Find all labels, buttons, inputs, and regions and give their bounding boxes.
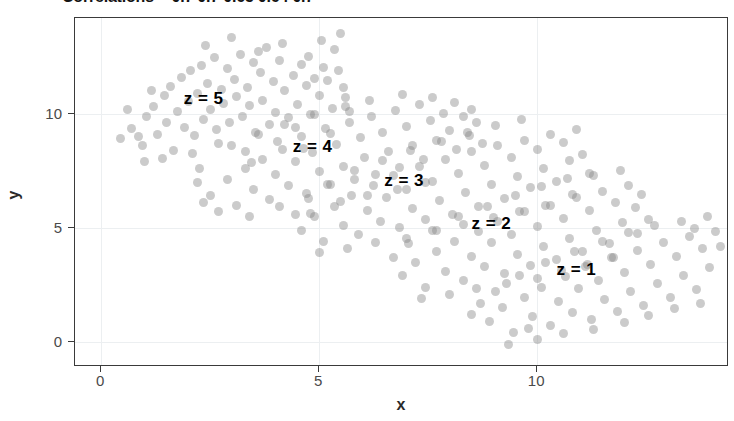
scatter-point: [243, 83, 252, 92]
scatter-point: [633, 246, 642, 255]
scatter-point: [269, 77, 278, 86]
scatter-point: [441, 155, 450, 164]
scatter-point: [291, 123, 300, 132]
scatter-point: [483, 202, 492, 211]
scatter-point: [328, 104, 337, 113]
scatter-point: [402, 122, 411, 131]
scatter-point: [716, 242, 725, 251]
scatter-point: [201, 41, 210, 50]
scatter-point: [592, 226, 601, 235]
scatter-point: [241, 164, 250, 173]
scatter-point: [317, 36, 326, 45]
scatter-point: [498, 303, 507, 312]
scatter-point: [271, 170, 280, 179]
scatter-point: [633, 229, 642, 238]
scatter-point: [162, 118, 171, 127]
scatter-point: [411, 258, 420, 267]
scatter-point: [210, 53, 219, 62]
scatter-point: [537, 182, 546, 191]
scatter-point: [517, 115, 526, 124]
scatter-point: [537, 283, 546, 292]
scatter-point: [265, 120, 274, 129]
scatter-point: [533, 145, 542, 154]
scatter-point: [350, 175, 359, 184]
scatter-point: [472, 118, 481, 127]
scatter-point: [367, 112, 376, 121]
scatter-point: [186, 66, 195, 75]
scatter-point: [539, 164, 548, 173]
gridline-vertical: [101, 18, 102, 365]
scatter-point: [225, 118, 234, 127]
scatter-point: [304, 52, 313, 61]
scatter-point: [214, 139, 223, 148]
scatter-point: [698, 244, 707, 253]
scatter-point: [502, 279, 511, 288]
gridline-vertical: [537, 18, 538, 365]
scatter-point: [467, 252, 476, 261]
scatter-point: [487, 238, 496, 247]
scatter-point: [467, 147, 476, 156]
scatter-point: [262, 43, 271, 52]
scatter-point: [293, 100, 302, 109]
scatter-point: [245, 101, 254, 110]
scatter-point: [476, 299, 485, 308]
scatter-point: [330, 202, 339, 211]
scatter-point: [223, 64, 232, 73]
scatter-point: [533, 274, 542, 283]
scatter-point: [445, 126, 454, 135]
scatter-point: [520, 207, 529, 216]
scatter-point: [345, 118, 354, 127]
scatter-point: [371, 170, 380, 179]
scatter-point: [618, 218, 627, 227]
scatter-point: [339, 221, 348, 230]
scatter-point: [160, 91, 169, 100]
scatter-point: [428, 93, 437, 102]
scatter-point: [478, 139, 487, 148]
scatter-point: [515, 271, 524, 280]
scatter-point: [426, 116, 435, 125]
scatter-point: [188, 149, 197, 158]
scatter-point: [637, 190, 646, 199]
plot-panel: z = 5z = 4z = 3z = 2z = 1: [74, 17, 728, 366]
scatter-point: [378, 156, 387, 165]
scatter-point: [236, 50, 245, 59]
scatter-point: [563, 174, 572, 183]
scatter-point: [450, 98, 459, 107]
scatter-point: [524, 324, 533, 333]
scatter-point: [513, 250, 522, 259]
scatter-point: [690, 224, 699, 233]
y-axis-tick: [68, 113, 74, 114]
scatter-point: [572, 125, 581, 134]
scatter-point: [280, 120, 289, 129]
scatter-point: [278, 145, 287, 154]
scatter-point: [398, 90, 407, 99]
scatter-point: [230, 75, 239, 84]
scatter-point: [624, 228, 633, 237]
scatter-point: [389, 253, 398, 262]
scatter-point: [685, 232, 694, 241]
scatter-point: [626, 287, 635, 296]
scatter-point: [620, 318, 629, 327]
scatter-point: [310, 110, 319, 119]
scatter-point: [589, 325, 598, 334]
scatter-point: [703, 212, 712, 221]
scatter-point: [644, 311, 653, 320]
scatter-point: [616, 166, 625, 175]
scatter-point: [289, 71, 298, 80]
scatter-point: [509, 328, 518, 337]
scatter-point: [480, 262, 489, 271]
scatter-point: [504, 340, 513, 349]
scatter-point: [711, 227, 720, 236]
scatter-point: [180, 123, 189, 132]
scatter-chart: Correlations = 0.7 0.7 0.65 0.64 0.7 z =…: [0, 0, 734, 421]
scatter-point: [461, 188, 470, 197]
scatter-point: [578, 150, 587, 159]
scatter-point: [315, 91, 324, 100]
scatter-point: [613, 307, 622, 316]
scatter-point: [520, 293, 529, 302]
scatter-point: [565, 234, 574, 243]
scatter-point: [452, 145, 461, 154]
scatter-point: [249, 185, 258, 194]
scatter-point: [343, 244, 352, 253]
scatter-point: [404, 239, 413, 248]
